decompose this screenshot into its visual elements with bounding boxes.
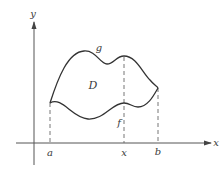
lower-curve-label: f [117,118,121,128]
tick-label-a: a [47,148,53,158]
diagram-graphic [0,0,222,170]
upper-curve-g [50,51,158,103]
y-axis-label: y [30,9,36,19]
tick-label-x: x [121,148,127,158]
upper-curve-label: g [96,43,102,53]
region-diagram: y x g D f a x b [0,0,222,170]
lower-curve-f [50,88,158,119]
region-label: D [89,80,98,91]
x-axis-label: x [213,138,219,148]
tick-label-b: b [155,147,161,157]
